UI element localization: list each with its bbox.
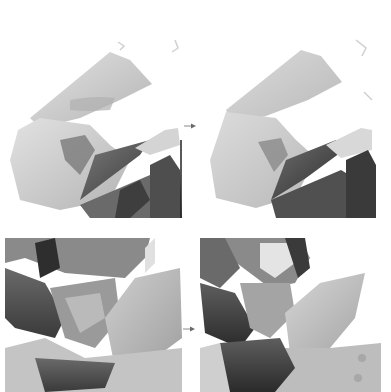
panel-bottom-left-before — [5, 238, 182, 392]
panel-top-right-after — [196, 0, 376, 218]
watercolor-illustration-before — [5, 238, 182, 392]
arrow-right-icon — [184, 123, 196, 129]
watercolor-illustration-before — [0, 0, 182, 218]
arrow-right-icon — [183, 326, 195, 332]
panel-bottom-right-after — [200, 238, 381, 392]
watercolor-illustration-after — [200, 238, 381, 392]
watercolor-illustration-after — [196, 0, 376, 218]
panel-top-left-before — [0, 0, 182, 218]
